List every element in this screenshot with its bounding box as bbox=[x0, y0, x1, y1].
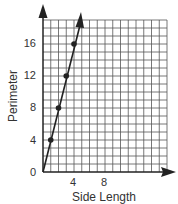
axes bbox=[39, 4, 177, 177]
x-tick-4: 4 bbox=[70, 176, 76, 188]
y-tick-12: 12 bbox=[24, 69, 36, 81]
data-point bbox=[71, 41, 77, 47]
x-tick-8: 8 bbox=[101, 176, 107, 188]
data-point bbox=[63, 73, 69, 79]
data-point bbox=[56, 105, 62, 111]
perimeter-chart: 0 4 8 12 16 4 8 Side Length Perimeter bbox=[0, 0, 178, 204]
x-axis-arrow-icon bbox=[161, 167, 176, 177]
y-axis-arrow-icon bbox=[39, 4, 48, 18]
y-tick-16: 16 bbox=[24, 37, 36, 49]
origin-label: 0 bbox=[30, 166, 36, 178]
data-point bbox=[48, 137, 54, 143]
x-axis-label: Side Length bbox=[72, 190, 136, 204]
y-axis-label: Perimeter bbox=[6, 70, 20, 122]
y-tick-8: 8 bbox=[30, 101, 36, 113]
y-tick-4: 4 bbox=[30, 134, 36, 146]
